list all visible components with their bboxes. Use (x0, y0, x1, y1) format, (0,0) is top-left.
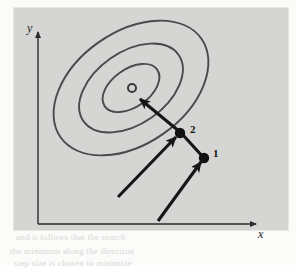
point-1-label: 1 (213, 147, 219, 159)
vector-group (118, 99, 203, 221)
point-2-dot (175, 128, 185, 138)
search-direction-to-point-2 (118, 137, 176, 197)
axes-group: y x (26, 21, 264, 241)
point-1-dot (199, 153, 209, 163)
vertical-axis-label: y (26, 21, 33, 35)
iterate-points-group: 1 2 (175, 123, 219, 163)
search-direction-to-point-1 (158, 162, 201, 221)
search-direction-to-optimum (140, 99, 180, 132)
horizontal-axis-label: x (257, 227, 264, 241)
step-from-point-1-to-point-2 (183, 135, 203, 157)
optimum-point (128, 84, 136, 92)
point-2-label: 2 (190, 123, 196, 135)
